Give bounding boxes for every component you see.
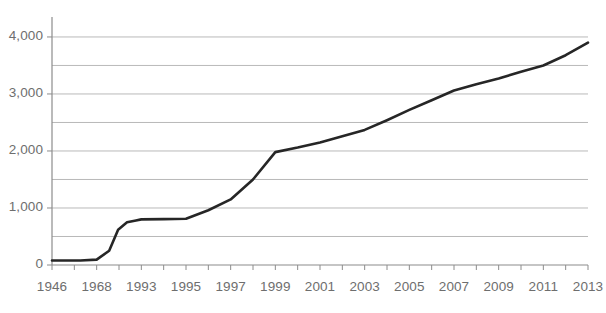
y-axis-tick-label: 3,000	[9, 85, 43, 100]
line-chart: 01,0002,0003,0004,000 194619681993199519…	[0, 0, 606, 313]
gridlines	[52, 37, 588, 237]
y-axis-tick-label: 1,000	[9, 199, 43, 214]
data-series-line	[52, 43, 588, 261]
y-axis-tick-label: 2,000	[9, 142, 43, 157]
y-axis-tick-label: 4,000	[9, 28, 43, 43]
x-axis-tick-label: 2013	[558, 279, 606, 294]
y-axis-tick-label: 0	[35, 256, 43, 271]
chart-canvas	[0, 0, 606, 313]
x-axis-ticks	[47, 37, 588, 270]
